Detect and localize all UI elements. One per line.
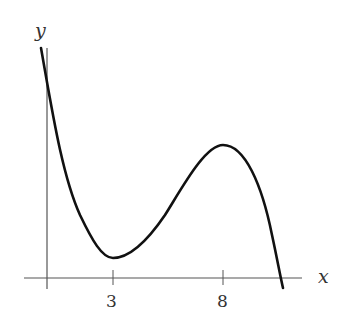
x-axis-label: x	[318, 265, 329, 287]
y-axis-label: y	[34, 19, 46, 41]
tick-label-3: 3	[106, 291, 117, 311]
function-curve	[41, 48, 283, 288]
graph: y x 3 8	[0, 0, 345, 327]
tick-label-8: 8	[217, 291, 228, 311]
